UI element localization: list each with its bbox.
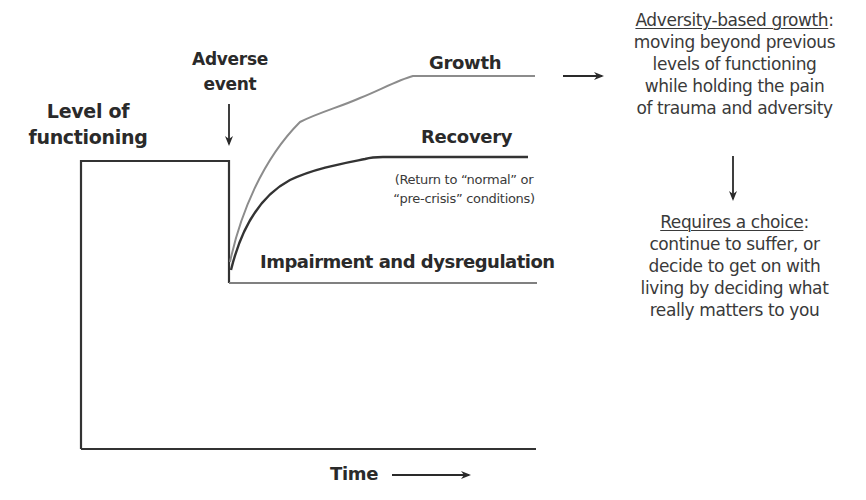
- adverse-event-label: Adverse event: [180, 47, 280, 97]
- growth-panel-line-2: levels of functioning: [612, 53, 857, 75]
- y-axis-label: Level of functioning: [8, 98, 168, 150]
- growth-label: Growth: [429, 52, 501, 73]
- growth-panel: Adversity-based growth: moving beyond pr…: [612, 9, 857, 119]
- growth-panel-colon: :: [828, 10, 833, 30]
- recovery-note-line-1: (Return to “normal” or: [380, 170, 548, 189]
- y-axis-label-line-2: functioning: [8, 124, 168, 150]
- adverse-event-line-2: event: [180, 72, 280, 97]
- growth-panel-title: Adversity-based growth: [635, 10, 828, 30]
- choice-panel-line-2: decide to get on with: [612, 255, 857, 277]
- growth-panel-line-3: while holding the pain: [612, 75, 857, 97]
- choice-panel-title: Requires a choice: [660, 212, 803, 232]
- choice-panel-colon: :: [803, 212, 808, 232]
- choice-panel-title-row: Requires a choice:: [612, 211, 857, 233]
- growth-panel-title-row: Adversity-based growth:: [612, 9, 857, 31]
- choice-panel-line-1: continue to suffer, or: [612, 233, 857, 255]
- recovery-note-line-2: “pre-crisis” conditions): [380, 189, 548, 208]
- choice-panel-line-3: living by deciding what: [612, 277, 857, 299]
- recovery-note: (Return to “normal” or “pre-crisis” cond…: [380, 170, 548, 208]
- growth-panel-line-1: moving beyond previous: [612, 31, 857, 53]
- growth-curve: [230, 76, 535, 262]
- adverse-event-line-1: Adverse: [180, 47, 280, 72]
- growth-panel-line-4: of trauma and adversity: [612, 97, 857, 119]
- y-axis-label-line-1: Level of: [8, 98, 168, 124]
- choice-panel: Requires a choice: continue to suffer, o…: [612, 211, 857, 321]
- impairment-label: Impairment and dysregulation: [260, 251, 555, 272]
- functioning-axis: [81, 161, 229, 449]
- time-label: Time: [330, 463, 378, 484]
- adversity-growth-diagram: Level of functioning Adverse event Growt…: [0, 0, 866, 500]
- recovery-label: Recovery: [421, 126, 512, 147]
- choice-panel-line-4: really matters to you: [612, 299, 857, 321]
